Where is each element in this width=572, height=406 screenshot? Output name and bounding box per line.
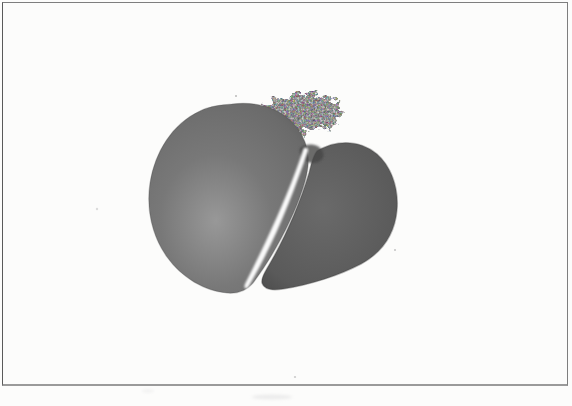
- specimen-image: [0, 0, 572, 406]
- dust-speck: [235, 95, 237, 97]
- print-smudge: [142, 390, 154, 393]
- print-smudge: [252, 395, 292, 400]
- dust-speck: [294, 376, 296, 378]
- dust-speck: [394, 249, 396, 251]
- dust-speck: [96, 208, 98, 210]
- page-background: [0, 0, 572, 406]
